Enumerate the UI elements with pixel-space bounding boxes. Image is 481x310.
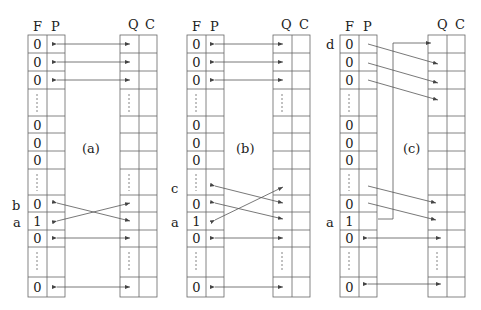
cell-f: 0 — [187, 198, 206, 211]
side-label-a: a — [326, 216, 334, 229]
panel-label-b: (b) — [236, 142, 254, 155]
cell-f: 0 — [28, 74, 47, 87]
cell-f: 0 — [187, 281, 206, 294]
side-label-d: d — [326, 38, 334, 51]
cell-f: 0 — [340, 232, 359, 245]
cell-f: 0 — [187, 119, 206, 132]
side-label-b: b — [12, 199, 20, 212]
diagram-a — [28, 35, 157, 297]
cell-f: 0 — [28, 232, 47, 245]
cell-f: 0 — [28, 137, 47, 150]
cell-f: 0 — [340, 281, 359, 294]
header-c-b: C — [299, 18, 309, 31]
cell-f: 1 — [28, 215, 47, 228]
side-label-a: a — [13, 216, 21, 229]
header-c-a: C — [145, 18, 155, 31]
cell-f: 0 — [340, 137, 359, 150]
cell-f: 1 — [340, 215, 359, 228]
cell-f: 0 — [340, 38, 359, 51]
side-label-a: a — [171, 216, 179, 229]
cell-f: 0 — [187, 137, 206, 150]
header-p-c: P — [363, 20, 372, 33]
header-f-c: F — [345, 20, 354, 33]
cell-f: 0 — [187, 38, 206, 51]
cell-f: 0 — [340, 119, 359, 132]
diagram-c-arrows — [368, 43, 441, 284]
cell-f: 0 — [28, 119, 47, 132]
cell-f: 0 — [187, 56, 206, 69]
cell-f: 0 — [340, 56, 359, 69]
cell-f: 0 — [187, 232, 206, 245]
cell-f: 0 — [28, 56, 47, 69]
header-f-b: F — [192, 20, 201, 33]
side-label-c: c — [171, 182, 178, 195]
cell-f: 0 — [340, 198, 359, 211]
header-c-c: C — [455, 18, 465, 31]
header-q-c: Q — [437, 18, 448, 31]
cell-f: 0 — [28, 38, 47, 51]
header-f-a: F — [33, 20, 42, 33]
header-p-a: P — [51, 20, 60, 33]
panel-label-a: (a) — [82, 142, 100, 155]
cell-f: 1 — [187, 215, 206, 228]
header-q-b: Q — [281, 18, 292, 31]
cell-f: 0 — [340, 154, 359, 167]
diagram-a-arrows — [57, 44, 130, 287]
cell-f: 0 — [187, 154, 206, 167]
header-p-b: P — [210, 20, 219, 33]
cell-f: 0 — [28, 154, 47, 167]
panel-label-c: (c) — [403, 142, 420, 155]
cell-f: 0 — [187, 74, 206, 87]
cell-f: 0 — [28, 198, 47, 211]
cell-f: 0 — [28, 281, 47, 294]
header-q-a: Q — [128, 18, 139, 31]
cell-f: 0 — [340, 74, 359, 87]
